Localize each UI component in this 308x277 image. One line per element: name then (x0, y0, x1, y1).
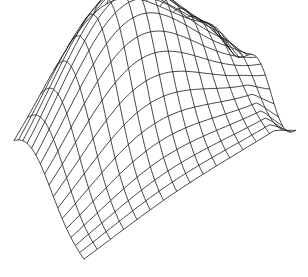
mesh-line (160, 0, 230, 158)
wireframe-surface (0, 0, 308, 277)
mesh-line (186, 16, 256, 142)
mesh-line (67, 103, 279, 229)
mesh-line (84, 130, 296, 259)
mesh-line (75, 118, 287, 245)
mesh-line (36, 0, 248, 155)
mesh-line (213, 30, 283, 130)
mesh-line (58, 85, 270, 208)
mesh-line (80, 14, 150, 210)
mesh-lines-u (14, 0, 296, 259)
mesh-line (133, 0, 203, 174)
mesh-line (49, 51, 261, 185)
mesh-line (27, 0, 239, 143)
mesh-line (200, 22, 270, 134)
mesh-lines-v (14, 0, 296, 259)
mesh-line (107, 0, 177, 191)
